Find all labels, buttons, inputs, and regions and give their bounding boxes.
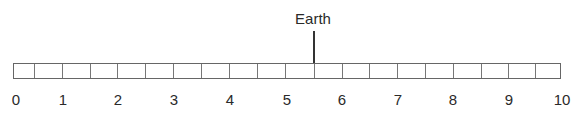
- cell-divider: [117, 64, 118, 78]
- number-line-bar: [13, 63, 561, 79]
- earth-marker-label: Earth: [295, 10, 331, 27]
- cell-divider: [145, 64, 146, 78]
- cell-divider: [425, 64, 426, 78]
- tick-label: 3: [170, 91, 178, 108]
- cell-divider: [285, 64, 286, 78]
- cell-divider: [314, 64, 315, 78]
- cell-divider: [229, 64, 230, 78]
- cell-divider: [397, 64, 398, 78]
- cell-divider: [34, 64, 35, 78]
- cell-divider: [369, 64, 370, 78]
- cell-divider: [257, 64, 258, 78]
- tick-label: 0: [12, 91, 20, 108]
- cell-divider: [481, 64, 482, 78]
- tick-label: 2: [114, 91, 122, 108]
- tick-label: 1: [59, 91, 67, 108]
- tick-label: 8: [449, 91, 457, 108]
- cell-divider: [62, 64, 63, 78]
- tick-label: 10: [554, 91, 571, 108]
- cell-divider: [201, 64, 202, 78]
- cell-divider: [173, 64, 174, 78]
- earth-marker-line: [313, 31, 315, 63]
- tick-label: 7: [394, 91, 402, 108]
- tick-label: 9: [505, 91, 513, 108]
- cell-divider: [508, 64, 509, 78]
- cell-divider: [342, 64, 343, 78]
- tick-label: 6: [338, 91, 346, 108]
- tick-label: 4: [226, 91, 234, 108]
- cell-divider: [90, 64, 91, 78]
- cell-divider: [535, 64, 536, 78]
- tick-label: 5: [283, 91, 291, 108]
- cell-divider: [453, 64, 454, 78]
